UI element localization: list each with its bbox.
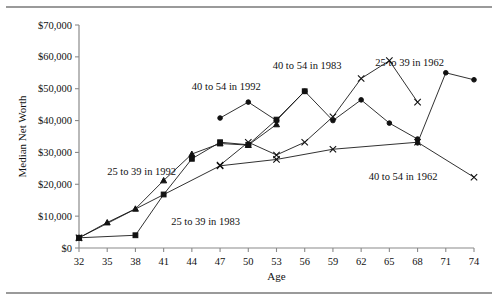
y-tick-label: $30,000 — [38, 147, 72, 158]
x-tick-label: 53 — [271, 256, 282, 267]
series-line — [220, 91, 418, 139]
x-tick-label: 71 — [441, 256, 452, 267]
data-point-circle — [218, 116, 223, 121]
data-point-x — [471, 174, 477, 180]
y-tick-label: $60,000 — [38, 51, 72, 62]
series-annotation: 40 to 54 in 1992 — [192, 81, 261, 92]
y-tick-label: $50,000 — [38, 83, 72, 94]
data-point-circle — [443, 70, 448, 75]
series-0: 25 to 39 in 1983 — [77, 89, 308, 240]
x-tick-label: 32 — [74, 256, 85, 267]
data-point-circle — [359, 98, 364, 103]
data-point-x — [414, 99, 420, 105]
data-point-square — [189, 156, 194, 161]
data-point-circle — [274, 118, 279, 123]
data-point-circle — [246, 100, 251, 105]
y-tick-label: $40,000 — [38, 115, 72, 126]
data-point-circle — [472, 77, 477, 82]
x-tick-label: 56 — [299, 256, 310, 267]
series-line — [79, 142, 474, 238]
line-chart: $0$10,000$20,000$30,000$40,000$50,000$60… — [0, 0, 498, 305]
x-tick-label: 38 — [130, 256, 141, 267]
x-tick-label: 35 — [102, 256, 113, 267]
series-2: 40 to 54 in 1992 — [192, 81, 420, 141]
y-tick-label: $70,000 — [38, 20, 72, 31]
series-line — [418, 73, 474, 143]
data-point-circle — [387, 121, 392, 126]
x-tick-label: 62 — [356, 256, 367, 267]
x-tick-label: 59 — [328, 256, 339, 267]
series-annotation: 25 to 39 in 1962 — [375, 57, 444, 68]
x-tick-label: 65 — [384, 256, 395, 267]
y-tick-label: $0 — [62, 243, 73, 254]
data-point-triangle — [189, 151, 195, 156]
figure-container: $0$10,000$20,000$30,000$40,000$50,000$60… — [0, 0, 498, 305]
data-point-square — [133, 233, 138, 238]
x-tick-label: 47 — [215, 256, 226, 267]
series-annotation: 40 to 54 in 1962 — [369, 171, 438, 182]
x-tick-label: 68 — [412, 256, 423, 267]
series-annotation: 40 to 54 in 1983 — [273, 60, 342, 71]
x-tick-label: 44 — [187, 256, 198, 267]
data-point-circle — [302, 89, 307, 94]
y-tick-label: $10,000 — [38, 211, 72, 222]
x-axis-title: Age — [267, 270, 285, 282]
data-point-x — [358, 75, 364, 81]
y-axis-title: Median Net Worth — [16, 95, 28, 178]
series-annotation: 25 to 39 in 1992 — [107, 166, 176, 177]
x-tick-label: 74 — [469, 256, 480, 267]
x-tick-label: 41 — [158, 256, 169, 267]
data-point-x — [302, 139, 308, 145]
series-annotation: 25 to 39 in 1983 — [171, 216, 240, 227]
y-tick-label: $20,000 — [38, 179, 72, 190]
series-line — [220, 61, 418, 165]
series-4: 25 to 39 in 1962 — [375, 57, 476, 145]
x-tick-label: 50 — [243, 256, 254, 267]
